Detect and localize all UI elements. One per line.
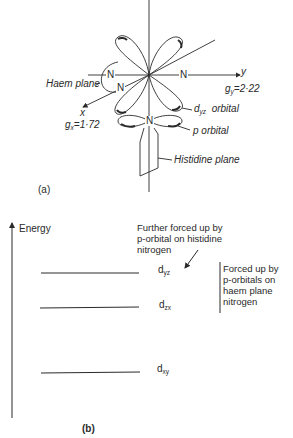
- nitrogen-left: N: [106, 70, 115, 80]
- level-label-dyz: dyz: [158, 265, 170, 277]
- energy-axis-label: Energy: [19, 224, 51, 234]
- level-label-dzx: dzx: [159, 300, 171, 312]
- annotation-haem: Forced up by p-orbitals on haem plane ni…: [223, 263, 278, 307]
- p-orbital-label: p orbital: [193, 126, 229, 136]
- level-dxy: [41, 372, 140, 373]
- panel-a-label: (a): [38, 185, 50, 195]
- nitrogen-right: N: [179, 70, 188, 80]
- y-axis-label: y: [241, 67, 246, 77]
- annotation-histidine: Further forced up by p-orbital on histid…: [137, 222, 223, 255]
- x-axis-label: x: [80, 108, 85, 118]
- histidine-plane-label: Histidine plane: [174, 155, 240, 165]
- level-label-dxy: dxy: [157, 364, 169, 376]
- nitrogen-front: N: [116, 83, 125, 93]
- gx-value-label: gx=1·72: [65, 120, 100, 132]
- dyz-orbital-label: dyz orbital: [194, 104, 239, 116]
- panel-b-label: (b): [82, 424, 95, 434]
- gy-value-label: gy=2·22: [225, 84, 260, 96]
- haem-plane-label: Haem plane: [46, 79, 100, 89]
- level-dzx: [40, 307, 139, 308]
- nitrogen-histidine: N: [145, 116, 154, 126]
